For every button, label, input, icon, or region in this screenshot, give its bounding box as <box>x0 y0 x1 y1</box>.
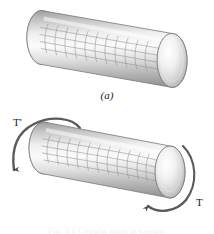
shaft-a <box>27 9 188 88</box>
panel-b-illustration <box>0 108 214 234</box>
panel-a-label: (a) <box>0 89 214 101</box>
shaft-b-front-cap <box>155 146 185 198</box>
shaft-a-front-cap <box>157 33 187 87</box>
shaft-b <box>29 122 185 198</box>
torque-label-left: T' <box>13 117 22 128</box>
torque-label-right: T <box>196 197 203 208</box>
panel-a-undeformed-shaft: (a) <box>0 0 214 108</box>
figure-root: (a) <box>0 0 214 234</box>
panel-b-twisted-shaft: (b) <box>0 108 214 234</box>
figure-caption-cropped: Fig. 3.1 Circular shaft in torsion. <box>0 226 214 234</box>
